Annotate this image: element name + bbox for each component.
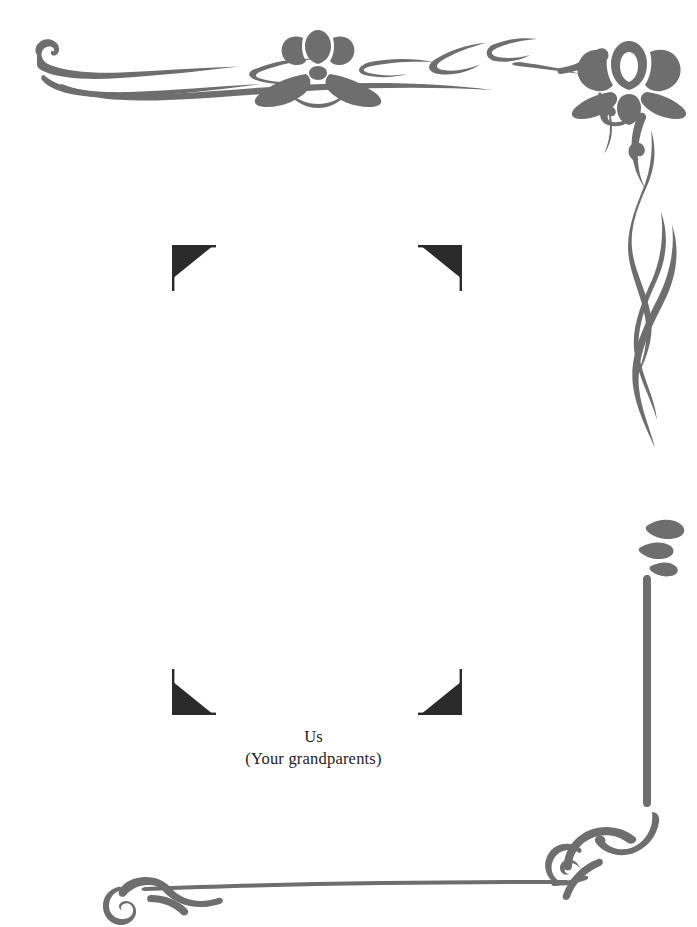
caption-line-secondary: (Your grandparents): [0, 748, 627, 770]
lotus-flower-small: [255, 30, 382, 108]
photo-corner-bottom-right: [418, 669, 462, 715]
photo-corner-top-right: [418, 245, 462, 291]
photo-caption: Us (Your grandparents): [0, 726, 627, 770]
photo-corner-bottom-left: [172, 669, 216, 715]
corner-curl: [545, 812, 659, 900]
scrapbook-page: Us (Your grandparents): [0, 0, 697, 927]
photo-frame: [172, 245, 462, 715]
photo-corner-top-left: [172, 245, 216, 291]
caption-line-primary: Us: [0, 726, 627, 748]
lotus-flower-large: [572, 41, 686, 125]
leaf: [639, 520, 685, 577]
